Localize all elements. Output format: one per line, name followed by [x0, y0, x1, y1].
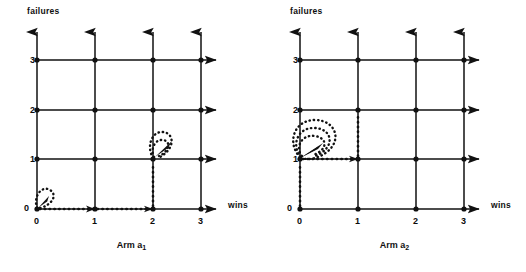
- x-tick-label-3: 3: [461, 216, 466, 226]
- y-tick-label-3: 3: [30, 55, 35, 65]
- y-tick-label-2: 2: [30, 105, 35, 115]
- lattice-grid-arm-1: [0, 0, 263, 272]
- y-tick-label-1: 1: [30, 154, 35, 164]
- lattice-nodes: [34, 57, 203, 211]
- lattice-nodes: [297, 57, 466, 211]
- x-axis-label: wins: [228, 200, 248, 210]
- trajectory-path-arm-1: [40, 163, 153, 209]
- caption-index: 2: [405, 244, 409, 251]
- x-tick-label-2: 2: [150, 216, 155, 226]
- x-tick-label-1: 1: [92, 216, 97, 226]
- panel-arm-1: failures wins 0 1 2 3 0 1 2 3 Arm a1: [0, 0, 263, 272]
- self-loop-0-0: [36, 189, 54, 208]
- x-tick-label-1: 1: [355, 216, 360, 226]
- caption-prefix: Arm: [380, 240, 398, 250]
- y-tick-label-2: 2: [293, 105, 298, 115]
- panel-caption-arm-2: Arm a2: [263, 240, 526, 250]
- y-tick-label-3: 3: [293, 55, 298, 65]
- x-axis-label: wins: [491, 200, 511, 210]
- x-tick-label-3: 3: [198, 216, 203, 226]
- x-tick-label-2: 2: [413, 216, 418, 226]
- y-tick-label-1: 1: [293, 154, 298, 164]
- x-tick-label-origin: 0: [34, 216, 39, 226]
- caption-prefix: Arm: [117, 240, 135, 250]
- x-tick-label-0: 0: [24, 203, 29, 213]
- lattice-grid-arm-2: [263, 0, 526, 272]
- y-axis-label: failures: [27, 6, 60, 16]
- trajectory-path-arm-2: [300, 114, 358, 206]
- self-loop-0-1-arrowheads: [301, 143, 323, 158]
- x-tick-label-origin: 0: [297, 216, 302, 226]
- panel-arm-2: failures wins 0 1 2 3 0 1 2 3 Arm a2: [263, 0, 526, 272]
- caption-index: 1: [142, 244, 146, 251]
- x-tick-label-0: 0: [287, 203, 292, 213]
- panel-caption-arm-1: Arm a1: [0, 240, 263, 250]
- bandit-lattice-figure: failures wins 0 1 2 3 0 1 2 3 Arm a1: [0, 0, 526, 272]
- y-axis-label: failures: [290, 6, 323, 16]
